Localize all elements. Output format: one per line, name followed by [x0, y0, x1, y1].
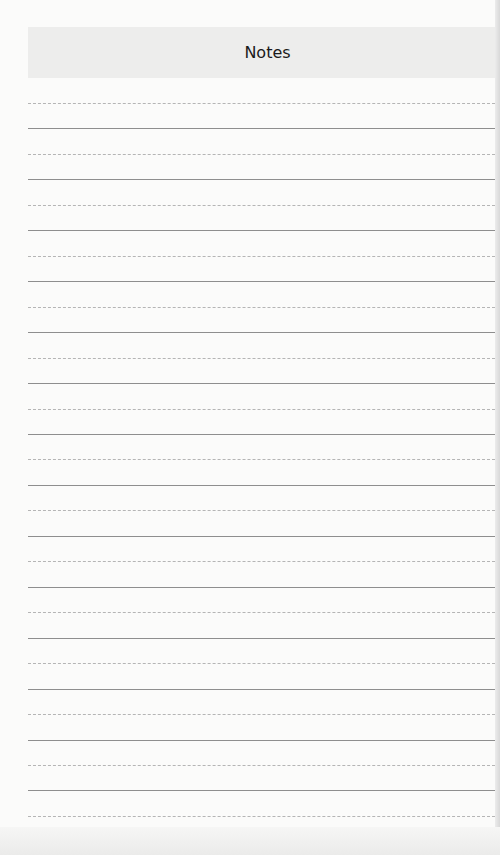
ruled-line: [28, 740, 495, 741]
ruled-line: [28, 154, 495, 155]
ruled-line: [28, 179, 495, 180]
ruled-line: [28, 434, 495, 435]
ruled-line: [28, 663, 495, 664]
ruled-line: [28, 230, 495, 231]
ruled-line: [28, 307, 495, 308]
ruled-line: [28, 383, 495, 384]
ruled-line: [28, 638, 495, 639]
notes-page: Notes: [0, 0, 500, 855]
ruled-line: [28, 587, 495, 588]
ruled-line: [28, 358, 495, 359]
ruled-line: [28, 409, 495, 410]
ruled-line: [28, 790, 495, 791]
ruled-line: [28, 612, 495, 613]
ruled-line: [28, 689, 495, 690]
ruled-line: [28, 765, 495, 766]
ruled-line: [28, 103, 495, 104]
page-edge-shadow: [495, 0, 500, 855]
ruled-line: [28, 256, 495, 257]
ruled-lines: [28, 0, 495, 855]
ruled-line: [28, 128, 495, 129]
ruled-line: [28, 816, 495, 817]
ruled-line: [28, 459, 495, 460]
bottom-margin: [0, 827, 500, 855]
ruled-line: [28, 561, 495, 562]
ruled-line: [28, 485, 495, 486]
ruled-line: [28, 281, 495, 282]
ruled-line: [28, 205, 495, 206]
ruled-line: [28, 536, 495, 537]
ruled-line: [28, 714, 495, 715]
ruled-line: [28, 332, 495, 333]
ruled-line: [28, 510, 495, 511]
